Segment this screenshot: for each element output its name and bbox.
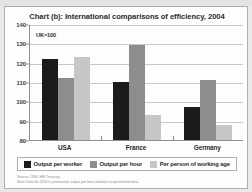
legend-item-label: Output per hour	[100, 161, 143, 167]
chart-title: Chart (b): International comparisons of …	[5, 12, 249, 21]
bar	[200, 80, 216, 140]
x-axis-category-label: Germany	[172, 144, 243, 151]
footnote-line: Note: Data for 2004 is provisional; outp…	[17, 180, 241, 185]
bar-group	[30, 25, 101, 140]
plot-wrapper: 1401301201101009080 UK=100 USAFranceGerm…	[5, 25, 249, 153]
bar	[74, 57, 90, 140]
legend-item-label: Output per worker	[34, 161, 83, 167]
y-axis-tick-label: 140	[16, 22, 26, 28]
bar	[113, 82, 129, 140]
x-axis-category-label: USA	[29, 144, 100, 151]
legend-item-label: Per person of working age	[160, 161, 230, 167]
legend-swatch-icon	[24, 161, 31, 168]
bar-group	[173, 25, 244, 140]
y-axis: 1401301201101009080	[5, 25, 29, 141]
plot-area: UK=100	[29, 25, 243, 141]
chart-figure-box: Chart (b): International comparisons of …	[4, 6, 248, 189]
x-axis-category-label: France	[100, 144, 171, 151]
bar	[58, 78, 74, 140]
x-axis-tick-mark	[173, 136, 174, 140]
legend-swatch-icon	[150, 161, 157, 168]
bar-group	[101, 25, 172, 140]
legend-item[interactable]: Output per worker	[24, 161, 82, 168]
y-axis-tick-label: 100	[16, 99, 26, 105]
bar	[42, 59, 58, 140]
y-axis-tick-label: 130	[16, 41, 26, 47]
footnotes: Source: ONS, HM TreasuryNote: Data for 2…	[17, 175, 241, 185]
x-axis-tick-mark	[101, 136, 102, 140]
y-axis-tick-label: 110	[17, 80, 26, 86]
bar	[184, 107, 200, 140]
legend-item[interactable]: Per person of working age	[150, 161, 230, 168]
bar	[216, 125, 232, 140]
y-axis-tick-label: 120	[16, 61, 26, 67]
bar	[145, 115, 161, 140]
legend-swatch-icon	[90, 161, 97, 168]
legend-item[interactable]: Output per hour	[90, 161, 142, 168]
chart-legend: Output per workerOutput per hourPer pers…	[17, 157, 237, 171]
bar	[129, 45, 145, 140]
